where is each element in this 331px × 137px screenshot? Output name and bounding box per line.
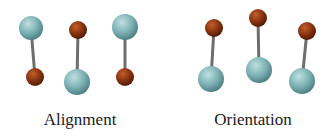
large-atom <box>19 16 43 40</box>
small-atom <box>249 9 267 27</box>
small-atom <box>298 22 316 40</box>
molecule <box>112 14 138 86</box>
small-atom <box>205 19 223 37</box>
small-atom <box>26 68 44 86</box>
alignment-label: Alignment <box>44 110 117 130</box>
molecule <box>246 9 272 83</box>
orientation-label: Orientation <box>214 110 291 130</box>
molecule <box>19 16 44 86</box>
large-atom <box>289 68 315 94</box>
large-atom <box>246 57 272 83</box>
small-atom <box>116 68 134 86</box>
large-atom <box>64 69 90 95</box>
molecule <box>64 21 90 95</box>
large-atom <box>198 66 224 92</box>
molecule <box>198 19 224 92</box>
small-atom <box>69 21 87 39</box>
large-atom <box>112 14 138 40</box>
molecule <box>289 22 316 94</box>
